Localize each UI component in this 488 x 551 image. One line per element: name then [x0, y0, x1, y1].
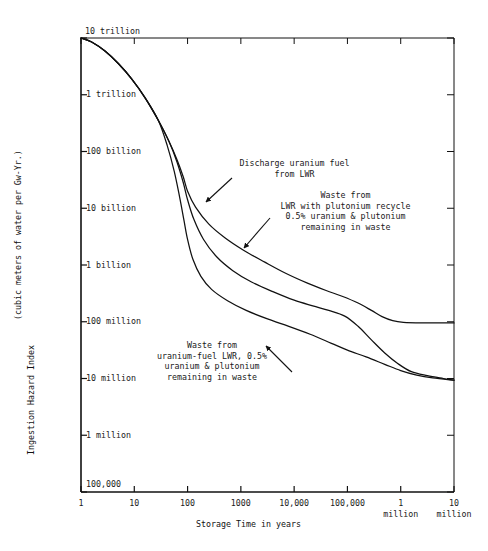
annotation-waste-uranium-fuel: Waste from uranium-fuel LWR, 0.5% uraniu…	[132, 340, 292, 383]
annotation-discharge-uranium-fuel: Discharge uranium fuel from LWR	[222, 158, 367, 179]
y-tick-label: 10 billion	[86, 203, 136, 213]
axis-frame	[81, 38, 454, 492]
y-tick-label: 1 million	[86, 430, 131, 440]
y-tick-label: 10 million	[86, 373, 136, 383]
x-tick-label: 10million	[419, 498, 488, 520]
chart-figure: Ingestion Hazard Index (cubic meters of …	[0, 0, 488, 551]
chart-canvas	[0, 0, 488, 551]
leader-line-0	[206, 178, 232, 202]
y-tick-label: 1 billion	[86, 260, 131, 270]
curve-0	[81, 38, 454, 323]
x-axis-title: Storage Time in years	[196, 519, 301, 530]
axis-ticks	[81, 38, 454, 492]
annotation-waste-plutonium-recycle: Waste from LWR with plutonium recycle 0.…	[258, 190, 433, 233]
y-tick-label: 100,000	[86, 479, 121, 489]
y-tick-label: 10 trillion	[85, 26, 140, 36]
y-axis-title-units: (cubic meters of water per Gw-Yr.)	[13, 150, 24, 320]
y-axis-title-primary: Ingestion Hazard Index	[26, 345, 37, 455]
y-tick-label: 1 trillion	[86, 89, 136, 99]
y-tick-label: 100 billion	[86, 146, 141, 156]
y-tick-label: 100 million	[86, 316, 141, 326]
